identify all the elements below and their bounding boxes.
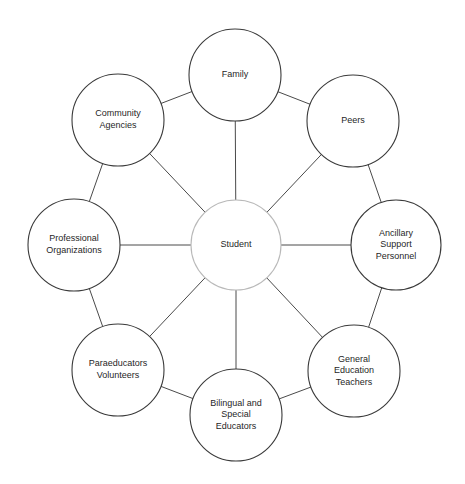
node-label-line: Peers [341, 115, 365, 125]
node-label-student: Student [220, 239, 252, 249]
node-student[interactable]: Student [191, 200, 281, 290]
node-family[interactable]: Family [189, 29, 281, 121]
node-label-line: Agencies [99, 120, 137, 130]
ring-link-family-to-peers [278, 92, 310, 105]
node-professional-organizations[interactable]: ProfessionalOrganizations [28, 199, 120, 291]
node-label-line: Family [222, 69, 249, 79]
spoke-link-student-to-general-education-teachers [267, 278, 323, 338]
node-label-line: Organizations [46, 245, 102, 255]
node-peers[interactable]: Peers [307, 75, 399, 167]
ring-link-paraeducators-volunteers-to-professional-organizations [89, 288, 102, 326]
node-label-line: Bilingual and [210, 398, 262, 408]
node-label-ancillary-support-personnel: AncillarySupportPersonnel [376, 228, 417, 261]
node-label-community-agencies: CommunityAgencies [95, 109, 141, 131]
ring-link-bilingual-and-special-educators-to-paraeducators-volunteers [161, 386, 193, 398]
node-label-line: Educators [216, 421, 257, 431]
node-label-line: Community [95, 109, 141, 119]
student-support-web-diagram: FamilyPeersAncillarySupportPersonnelGene… [0, 0, 465, 484]
node-label-professional-organizations: ProfessionalOrganizations [46, 234, 102, 256]
node-label-line: Ancillary [379, 228, 414, 238]
node-label-peers: Peers [341, 115, 365, 125]
ring-link-peers-to-ancillary-support-personnel [368, 164, 381, 202]
ring-link-general-education-teachers-to-bilingual-and-special-educators [279, 387, 311, 399]
ring-link-professional-organizations-to-community-agencies [89, 163, 102, 201]
node-label-line: Personnel [376, 251, 417, 261]
spoke-link-student-to-paraeducators-volunteers [150, 278, 206, 337]
node-paraeducators-volunteers[interactable]: ParaeducatorsVolunteers [72, 324, 164, 416]
spoke-link-student-to-community-agencies [150, 153, 206, 212]
node-label-line: Education [334, 365, 374, 375]
node-label-line: Special [221, 409, 251, 419]
node-label-line: Teachers [336, 377, 373, 387]
node-label-line: General [338, 354, 370, 364]
node-label-line: Student [220, 239, 252, 249]
ring-link-community-agencies-to-family [161, 92, 192, 104]
center-node-group: Student [191, 200, 281, 290]
node-label-general-education-teachers: GeneralEducationTeachers [334, 354, 374, 387]
spoke-link-student-to-peers [267, 154, 322, 212]
node-label-paraeducators-volunteers: ParaeducatorsVolunteers [89, 359, 148, 381]
node-label-line: Paraeducators [89, 359, 148, 369]
node-label-line: Volunteers [97, 370, 140, 380]
node-ancillary-support-personnel[interactable]: AncillarySupportPersonnel [351, 200, 441, 290]
node-label-line: Professional [49, 234, 99, 244]
node-bilingual-and-special-educators[interactable]: Bilingual andSpecialEducators [190, 369, 282, 461]
node-community-agencies[interactable]: CommunityAgencies [72, 74, 164, 166]
node-general-education-teachers[interactable]: GeneralEducationTeachers [308, 325, 400, 417]
node-label-line: Support [380, 239, 412, 249]
diagram-canvas: FamilyPeersAncillarySupportPersonnelGene… [0, 0, 465, 484]
ring-link-ancillary-support-personnel-to-general-education-teachers [369, 288, 382, 328]
node-label-family: Family [222, 69, 249, 79]
